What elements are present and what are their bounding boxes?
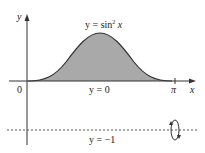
axis-of-rotation-label: y = −1 [89, 134, 115, 145]
pi-label: π [171, 84, 177, 95]
curve-label: y = sin2 x [85, 19, 123, 30]
y-axis-arrow-icon [25, 14, 30, 21]
origin-label: 0 [17, 84, 22, 95]
y-axis-label: y [16, 11, 22, 22]
x-axis-arrow-icon [189, 79, 196, 84]
shaded-region [28, 33, 172, 81]
x-axis-label: x [189, 84, 195, 95]
baseline-label: y = 0 [89, 84, 110, 95]
volume-of-revolution-diagram: y x 0 π y = sin2 x y = 0 y = −1 [0, 0, 205, 153]
